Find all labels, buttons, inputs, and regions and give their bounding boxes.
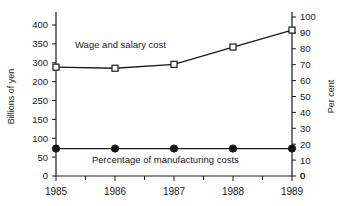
left-axis-tick-label: 300 (32, 57, 48, 68)
right-axis-title-text: Per cent (326, 79, 336, 113)
left-axis-tick-label: 400 (32, 19, 48, 30)
x-axis-tick-label: 1986 (104, 186, 127, 197)
wage-cost-marker (289, 27, 295, 33)
right-axis-tick-label: 30 (300, 123, 311, 134)
wage-cost-marker (171, 61, 177, 67)
percentage-marker (111, 145, 118, 152)
wage-cost-marker (53, 64, 59, 70)
percentage-marker (52, 145, 59, 152)
wage-cost-annotation: Wage and salary cost (75, 39, 166, 50)
left-axis-tick-label: 100 (32, 133, 48, 144)
left-axis-tick-label: 350 (32, 38, 48, 49)
left-axis-tick-label: 0 (43, 170, 48, 181)
right-axis-tick-label: 80 (300, 43, 311, 54)
chart-figure: 4003503002002501501005001009080706050403… (0, 0, 348, 206)
x-axis-tick-label: 1987 (163, 186, 186, 197)
right-axis-tick-label: 40 (300, 107, 311, 118)
left-axis-title-text: Billions of yen (6, 69, 16, 125)
wage-cost-marker (112, 65, 118, 71)
left-axis-tick-label: 50 (37, 152, 48, 163)
right-axis-tick-label: 20 (300, 139, 311, 150)
wage-cost-marker (230, 44, 236, 50)
left-axis-tick-label: 250 (32, 95, 48, 106)
right-axis-tick-label: 90 (300, 27, 311, 38)
line-chart-canvas: 4003503002002501501005001009080706050403… (0, 0, 348, 206)
percentage-marker (288, 145, 295, 152)
left-axis-tick-label: 150 (32, 114, 48, 125)
percentage-annotation: Percentage of manufacturing costs (92, 154, 239, 165)
right-axis-tick-label: 100 (300, 11, 316, 22)
x-axis-tick-label: 1989 (281, 186, 304, 197)
x-axis-tick-label: 1988 (222, 186, 245, 197)
left-axis-tick-label: 200 (32, 76, 48, 87)
right-axis-tick-label: 10 (300, 155, 311, 166)
right-axis-tick-label: 70 (300, 59, 311, 70)
percentage-marker (229, 145, 236, 152)
right-axis-tick-label: 50 (300, 91, 311, 102)
right-axis-zero-label: 0 (300, 170, 305, 181)
percentage-marker (170, 145, 177, 152)
x-axis-tick-label: 1985 (45, 186, 68, 197)
right-axis-tick-label: 60 (300, 75, 311, 86)
